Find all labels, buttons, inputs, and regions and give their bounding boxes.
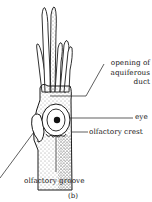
label-line: duct [106,77,150,87]
label-olfactory-groove: olfactory groove [24,176,85,186]
label-opening-of-aquiferous-duct: opening of aquiferous duct [106,58,150,87]
head-illustration [0,0,152,202]
diagram-figure: opening of aquiferous duct eye olfactory… [0,0,152,202]
label-line: opening of [106,58,150,68]
label-line: aquiferous [106,68,150,78]
eye-icon [42,104,70,136]
label-olfactory-crest: olfactory crest [89,127,143,137]
label-eye: eye [135,112,148,122]
figure-caption: (b) [68,192,78,202]
leader-left [0,132,34,178]
tentacles [37,7,73,92]
